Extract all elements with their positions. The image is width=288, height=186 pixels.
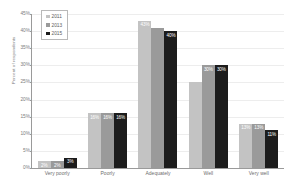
bar-value-label: 30% bbox=[204, 67, 213, 72]
y-tick-label: 40% bbox=[6, 28, 30, 33]
legend-label: 2015 bbox=[52, 31, 63, 36]
x-axis-line bbox=[31, 168, 284, 169]
bar-group: 43%40% bbox=[138, 14, 177, 168]
legend-item[interactable]: 2011 bbox=[46, 14, 62, 19]
bar-fill: 30% bbox=[202, 65, 215, 168]
bar-chart: Percent of respondents 45%40%35%30%25%20… bbox=[0, 0, 288, 186]
bar-value-label: 2% bbox=[41, 163, 47, 168]
legend-swatch-icon bbox=[46, 15, 50, 19]
y-tick-label: 20% bbox=[6, 97, 30, 102]
bar-fill: 13% bbox=[252, 124, 265, 168]
bar-group: 16%16%16% bbox=[88, 14, 127, 168]
bar-fill: 2% bbox=[38, 161, 51, 168]
y-tick-label: 15% bbox=[6, 114, 30, 119]
bar-value-label: 2% bbox=[54, 163, 60, 168]
bar-fill: 16% bbox=[114, 113, 127, 168]
x-tick-label: Adequately bbox=[133, 170, 183, 176]
plot-area: 2%2%3%16%16%16%43%40%30%30%13%13%11% bbox=[32, 14, 284, 168]
bar-value-label: 3% bbox=[67, 159, 73, 164]
bar-fill: 30% bbox=[215, 65, 228, 168]
bar-value-label: 16% bbox=[116, 115, 125, 120]
bar-value-label: 43% bbox=[141, 22, 150, 27]
x-axis-tick-labels: Very poorlyPoorlyAdequatelyWellVery well bbox=[32, 170, 284, 176]
legend-item[interactable]: 2015 bbox=[46, 31, 62, 36]
bar-fill: 2% bbox=[51, 161, 64, 168]
bar-fill: 16% bbox=[101, 113, 114, 168]
bar-fill bbox=[189, 82, 202, 168]
y-tick-label: 5% bbox=[6, 148, 30, 153]
bar-fill bbox=[151, 28, 164, 168]
bar-value-label: 30% bbox=[217, 67, 226, 72]
bar-value-label: 16% bbox=[103, 115, 112, 120]
x-tick-label: Very poorly bbox=[32, 170, 82, 176]
legend-item[interactable]: 2013 bbox=[46, 23, 62, 28]
legend: 201120132015 bbox=[41, 10, 68, 40]
bar-fill: 16% bbox=[88, 113, 101, 168]
y-tick-label: 45% bbox=[6, 11, 30, 16]
y-tick-label: 0% bbox=[6, 165, 30, 170]
legend-label: 2013 bbox=[52, 23, 63, 28]
bar-value-label: 13% bbox=[254, 125, 263, 130]
bar-fill: 3% bbox=[64, 158, 77, 168]
y-tick-label: 10% bbox=[6, 131, 30, 136]
x-tick-label: Poorly bbox=[82, 170, 132, 176]
legend-swatch-icon bbox=[46, 23, 50, 27]
bar-groups: 2%2%3%16%16%16%43%40%30%30%13%13%11% bbox=[32, 14, 284, 168]
bar-value-label: 40% bbox=[167, 33, 176, 38]
bar-fill: 13% bbox=[239, 124, 252, 168]
y-tick-label: 35% bbox=[6, 45, 30, 50]
bar-value-label: 13% bbox=[241, 125, 250, 130]
bar-fill: 40% bbox=[164, 31, 177, 168]
bar-fill: 11% bbox=[265, 130, 278, 168]
bar-value-label: 11% bbox=[267, 132, 276, 137]
bar-fill: 43% bbox=[138, 21, 151, 168]
y-tick-label: 30% bbox=[6, 62, 30, 67]
y-tick-label: 25% bbox=[6, 79, 30, 84]
bar-group: 30%30% bbox=[189, 14, 228, 168]
legend-swatch-icon bbox=[46, 32, 50, 36]
x-tick-label: Well bbox=[183, 170, 233, 176]
legend-label: 2011 bbox=[52, 14, 62, 19]
x-tick-label: Very well bbox=[234, 170, 284, 176]
bar-group: 13%13%11% bbox=[239, 14, 278, 168]
bar-value-label: 16% bbox=[90, 115, 99, 120]
